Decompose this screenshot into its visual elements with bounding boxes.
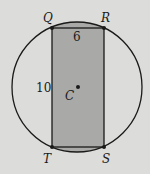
vertex-s-point bbox=[102, 145, 106, 149]
vertex-q-point bbox=[50, 26, 54, 30]
measure-top-side: 6 bbox=[73, 30, 81, 44]
label-t: T bbox=[43, 152, 52, 166]
vertex-t-point bbox=[50, 145, 54, 149]
label-q: Q bbox=[43, 11, 53, 25]
geometry-diagram: Q R T S C 6 10 bbox=[0, 0, 150, 174]
measure-left-side: 10 bbox=[36, 81, 51, 95]
label-s: S bbox=[102, 152, 110, 166]
label-c: C bbox=[65, 89, 74, 103]
label-r: R bbox=[100, 11, 110, 25]
center-point bbox=[76, 85, 80, 89]
vertex-r-point bbox=[102, 26, 106, 30]
